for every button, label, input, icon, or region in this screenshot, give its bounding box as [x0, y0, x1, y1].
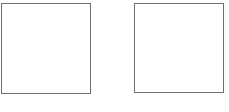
left-square: [1, 3, 91, 94]
right-square: [134, 3, 224, 93]
